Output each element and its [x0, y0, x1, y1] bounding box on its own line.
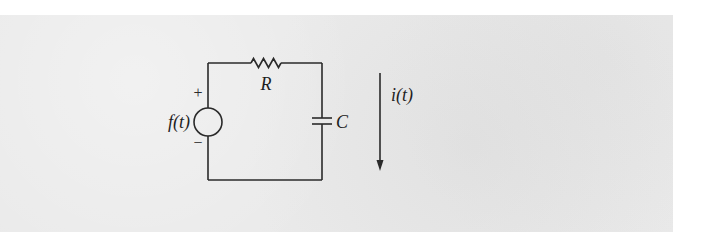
resistor-icon — [251, 59, 281, 68]
capacitor-label: C — [336, 112, 349, 132]
current-label: i(t) — [391, 85, 413, 106]
resistor-label: R — [260, 74, 272, 94]
source-minus-sign: − — [193, 134, 202, 151]
capacitor-icon — [312, 118, 332, 124]
rc-circuit-diagram: + − f(t) R C i(t) — [0, 0, 706, 243]
current-arrow-icon — [377, 73, 384, 171]
voltage-source-icon — [194, 108, 222, 136]
source-plus-sign: + — [193, 84, 202, 101]
source-label: f(t) — [168, 112, 190, 133]
